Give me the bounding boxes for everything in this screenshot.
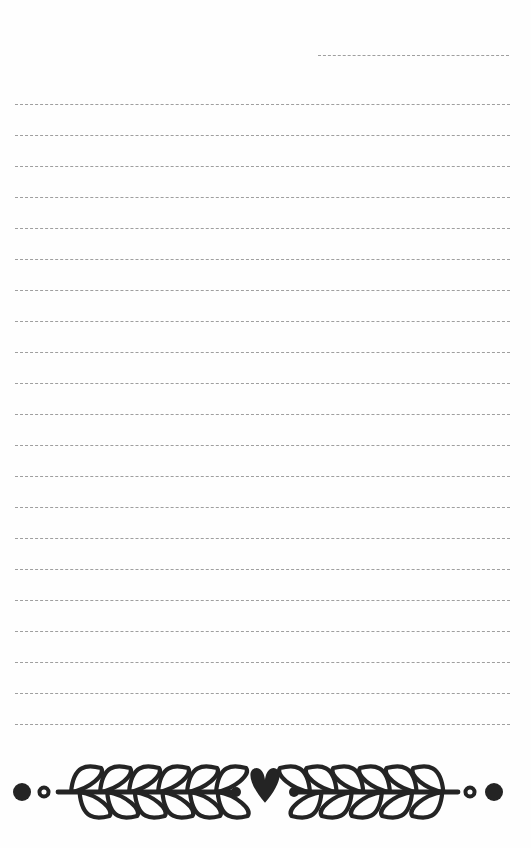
filled-dot-left-outer bbox=[13, 783, 31, 801]
filled-dot-right-outer bbox=[485, 783, 503, 801]
laurel-leaf-bottom-1-4 bbox=[411, 792, 442, 818]
heart-center bbox=[250, 768, 279, 803]
laurel-leaf-bottom-1-3 bbox=[381, 792, 412, 818]
laurel-leaf-top-0-3 bbox=[158, 766, 189, 792]
stem-dot-left bbox=[231, 787, 241, 797]
laurel-leaf-top-0-0 bbox=[71, 766, 102, 792]
divider-canvas bbox=[0, 0, 531, 848]
laurel-leaf-top-0-1 bbox=[100, 766, 131, 792]
laurel-leaf-top-0-5 bbox=[216, 766, 247, 792]
ring-dot-left-inner bbox=[39, 787, 48, 796]
laurel-leaf-top-0-4 bbox=[187, 766, 218, 792]
laurel-leaf-top-0-2 bbox=[129, 766, 160, 792]
laurel-heart-divider bbox=[0, 0, 531, 848]
laurel-leaf-bottom-1-1 bbox=[321, 792, 352, 818]
ring-dot-right-inner bbox=[465, 787, 474, 796]
laurel-leaf-bottom-1-2 bbox=[351, 792, 382, 818]
notepaper-page bbox=[0, 0, 531, 848]
